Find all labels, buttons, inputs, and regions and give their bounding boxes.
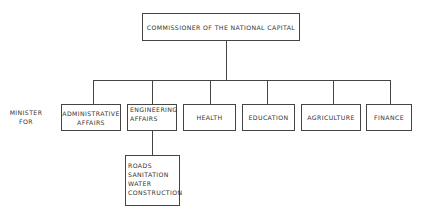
connector-engineering-sub — [152, 130, 153, 155]
root-label: COMMISSIONER OF THE NATIONAL CAPITAL — [147, 23, 295, 32]
row-label-minister-for: MINISTER FOR — [6, 108, 46, 126]
connector-health — [210, 80, 211, 104]
ministry-box-finance: FINANCE — [366, 104, 412, 131]
ministry-box-education: EDUCATION — [242, 104, 295, 131]
ministry-label: AGRICULTURE — [307, 113, 354, 122]
horizontal-bus — [93, 80, 391, 81]
connector-education — [267, 80, 268, 104]
root-connector — [226, 41, 227, 80]
ministry-label-line1: ENGINEERING — [130, 105, 178, 114]
connector-admin — [93, 80, 94, 104]
connector-finance — [390, 80, 391, 104]
ministry-box-agriculture: AGRICULTURE — [301, 104, 361, 131]
ministry-label: HEALTH — [196, 113, 222, 122]
root-box-commissioner: COMMISSIONER OF THE NATIONAL CAPITAL — [142, 13, 300, 41]
ministry-label-line2: AFFAIRS — [77, 118, 105, 127]
ministry-label-line2: AFFAIRS — [130, 114, 158, 123]
ministry-box-health: HEALTH — [183, 104, 236, 131]
ministry-box-engineering-affairs: ENGINEERING AFFAIRS — [127, 104, 177, 131]
sub-item-roads: ROADS — [128, 161, 152, 170]
connector-engineering — [152, 80, 153, 104]
row-label-text: MINISTER FOR — [10, 109, 43, 125]
ministry-label: FINANCE — [374, 113, 404, 122]
sub-item-water: WATER — [128, 179, 152, 188]
ministry-box-administrative-affairs: ADMINISTRATIVE AFFAIRS — [61, 104, 121, 131]
engineering-sub-box: ROADS SANITATION WATER CONSTRUCTION — [125, 155, 180, 206]
connector-agriculture — [333, 80, 334, 104]
sub-item-construction: CONSTRUCTION — [128, 188, 183, 197]
ministry-label-line1: ADMINISTRATIVE — [62, 109, 119, 118]
sub-item-sanitation: SANITATION — [128, 170, 169, 179]
ministry-label: EDUCATION — [249, 113, 289, 122]
